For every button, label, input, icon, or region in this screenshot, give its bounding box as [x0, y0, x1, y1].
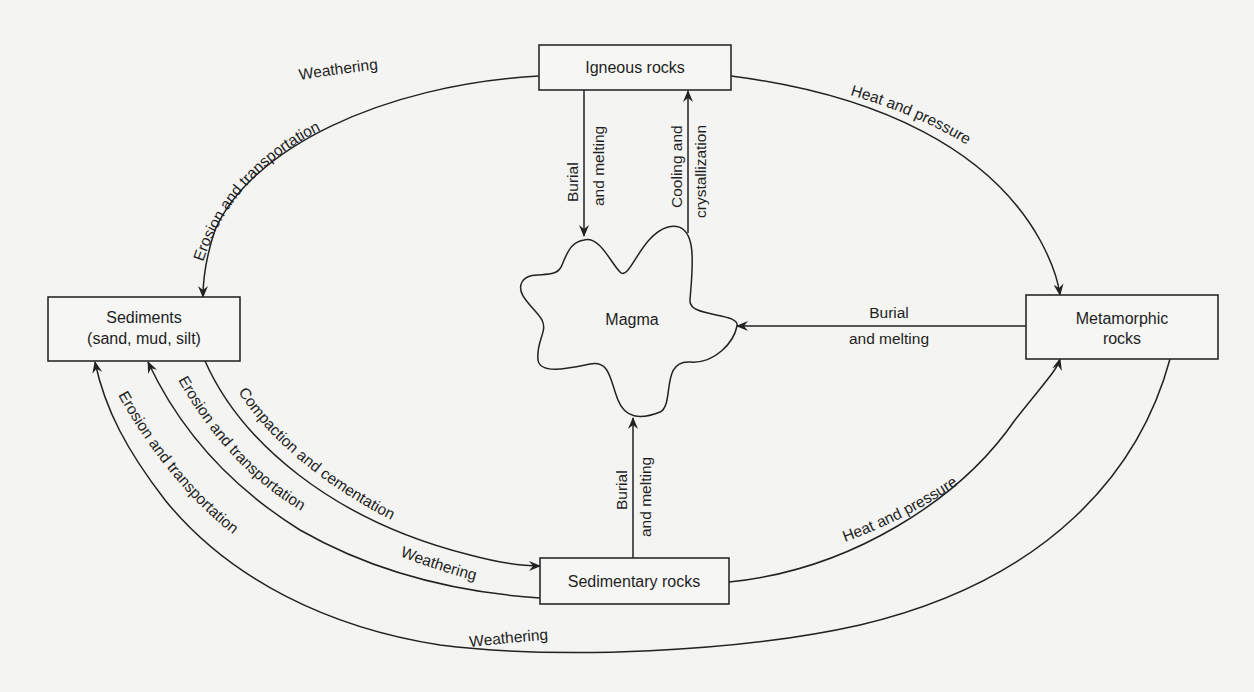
- label-heat-pressure-top: Heat and pressure: [849, 82, 974, 148]
- edge-sedimentary-to-metamorphic: [729, 359, 1060, 582]
- label-weathering-bottom: Weathering: [468, 625, 548, 650]
- label-sedimentary-melting: and melting: [637, 457, 654, 537]
- sedimentary-label: Sedimentary rocks: [568, 573, 701, 590]
- label-igneous-magma-melting: and melting: [590, 126, 607, 206]
- label-crystallization: crystallization: [692, 125, 709, 218]
- metamorphic-label-line1: Metamorphic: [1076, 310, 1168, 327]
- label-cooling: Cooling and: [668, 125, 685, 208]
- label-igneous-magma-burial: Burial: [564, 162, 581, 202]
- node-igneous-rocks: Igneous rocks: [539, 45, 731, 90]
- sediments-label-line1: Sediments: [106, 309, 182, 326]
- sediments-label-line2: (sand, mud, silt): [87, 330, 201, 347]
- node-metamorphic-rocks: Metamorphic rocks: [1026, 295, 1218, 359]
- rock-cycle-diagram: Igneous rocks Sediments (sand, mud, silt…: [0, 0, 1254, 692]
- label-weathering-top: Weathering: [298, 55, 379, 83]
- label-sedimentary-burial: Burial: [613, 470, 630, 510]
- label-weathering-mid: Weathering: [399, 543, 479, 583]
- node-sedimentary-rocks: Sedimentary rocks: [540, 558, 729, 604]
- label-erosion-outer: Erosion and transportation: [115, 388, 242, 537]
- magma-label: Magma: [605, 311, 658, 328]
- node-sediments: Sediments (sand, mud, silt): [48, 297, 240, 361]
- igneous-label: Igneous rocks: [585, 59, 685, 76]
- metamorphic-label-line2: rocks: [1103, 330, 1141, 347]
- label-erosion-top: Erosion and transportation: [190, 118, 323, 263]
- label-heat-pressure-bottom: Heat and pressure: [840, 472, 960, 544]
- node-magma: Magma: [521, 226, 738, 416]
- edge-igneous-to-sediments: [203, 76, 539, 297]
- label-metamorphic-melting: and melting: [849, 330, 929, 347]
- label-metamorphic-burial: Burial: [869, 304, 909, 321]
